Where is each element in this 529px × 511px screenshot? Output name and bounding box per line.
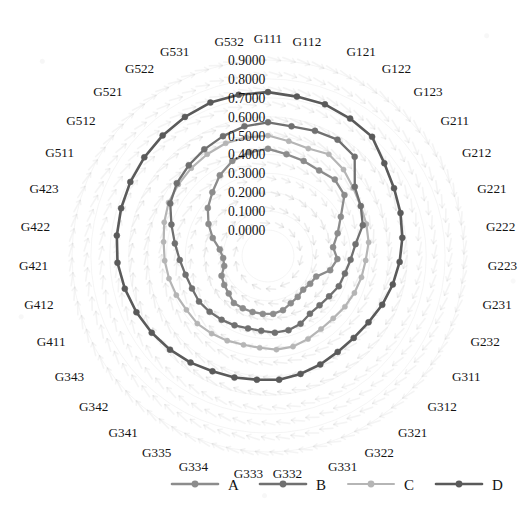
category-label-g422: G422 bbox=[21, 219, 50, 234]
category-label-g322: G322 bbox=[365, 445, 394, 460]
radial-tick-label: 0.2000 bbox=[228, 185, 266, 200]
category-label-g421: G421 bbox=[19, 258, 48, 273]
category-label-g412: G412 bbox=[24, 297, 53, 312]
category-label-g221: G221 bbox=[477, 181, 506, 196]
legend-label-a: A bbox=[228, 477, 239, 493]
category-label-g341: G341 bbox=[109, 425, 138, 440]
radial-tick-label: 0.6000 bbox=[228, 110, 266, 125]
category-label-g335: G335 bbox=[142, 445, 172, 460]
category-label-g343: G343 bbox=[55, 369, 85, 384]
radial-tick-label: 0.0000 bbox=[228, 223, 266, 238]
category-label-g123: G123 bbox=[413, 84, 443, 99]
category-label-g121: G121 bbox=[347, 44, 376, 59]
series-c bbox=[161, 133, 371, 352]
legend-item-c[interactable]: C bbox=[348, 477, 414, 493]
category-label-g321: G321 bbox=[398, 425, 427, 440]
radial-tick-label: 0.8000 bbox=[228, 72, 266, 87]
category-label-g531: G531 bbox=[160, 44, 189, 59]
category-label-g411: G411 bbox=[37, 334, 66, 349]
legend-item-d[interactable]: D bbox=[436, 477, 503, 493]
category-label-g111: G111 bbox=[254, 31, 282, 46]
polar-chart-svg: 0.90000.80000.70000.60000.50000.40000.30… bbox=[0, 0, 529, 511]
category-label-g222: G222 bbox=[486, 219, 515, 234]
category-label-g522: G522 bbox=[125, 61, 154, 76]
category-label-g232: G232 bbox=[471, 334, 500, 349]
radial-tick-label: 0.4000 bbox=[228, 147, 266, 162]
category-label-g231: G231 bbox=[483, 297, 512, 312]
radial-tick-label: 0.5000 bbox=[228, 129, 266, 144]
radial-tick-label: 0.1000 bbox=[228, 204, 266, 219]
radial-tick-label: 0.9000 bbox=[228, 53, 266, 68]
polar-chart-figure: 0.90000.80000.70000.60000.50000.40000.30… bbox=[0, 0, 529, 511]
category-label-g332: G332 bbox=[273, 466, 302, 481]
legend-label-b: B bbox=[316, 477, 326, 493]
category-label-g334: G334 bbox=[179, 459, 209, 474]
radial-tick-labels: 0.90000.80000.70000.60000.50000.40000.30… bbox=[228, 53, 266, 238]
category-label-g223: G223 bbox=[488, 258, 518, 273]
category-label-g511: G511 bbox=[45, 145, 74, 160]
category-label-g112: G112 bbox=[292, 34, 321, 49]
category-label-g532: G532 bbox=[214, 34, 243, 49]
category-label-g212: G212 bbox=[462, 145, 491, 160]
category-label-g312: G312 bbox=[428, 399, 457, 414]
category-label-g423: G423 bbox=[29, 181, 59, 196]
category-label-g512: G512 bbox=[66, 113, 95, 128]
legend-label-d: D bbox=[492, 477, 503, 493]
legend-item-a[interactable]: A bbox=[172, 477, 239, 493]
category-label-g331: G331 bbox=[328, 459, 357, 474]
radial-tick-label: 0.7000 bbox=[228, 91, 266, 106]
radial-tick-label: 0.3000 bbox=[228, 166, 266, 181]
legend-label-c: C bbox=[404, 477, 414, 493]
category-label-g122: G122 bbox=[382, 61, 411, 76]
category-label-g521: G521 bbox=[93, 84, 122, 99]
chart-legend: ABCD bbox=[172, 477, 503, 493]
category-label-g211: G211 bbox=[440, 113, 469, 128]
category-label-g342: G342 bbox=[79, 399, 108, 414]
category-label-g311: G311 bbox=[452, 369, 481, 384]
